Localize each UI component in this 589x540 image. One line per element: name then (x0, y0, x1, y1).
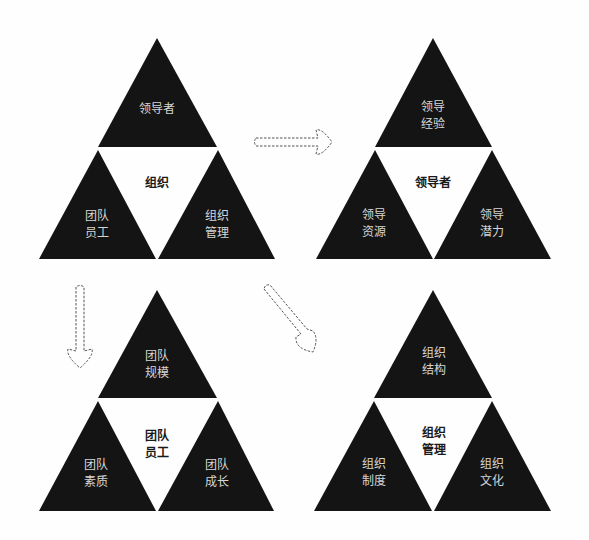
triforce-leader (316, 38, 551, 259)
label-org-management-top: 组织 结构 (422, 345, 446, 379)
label-org-management-center: 组织 管理 (422, 425, 446, 459)
dashed-arrow-right-icon (255, 130, 333, 155)
label-org-management-left: 组织 制度 (362, 456, 386, 490)
label-organization-right: 组织 管理 (205, 208, 229, 242)
label-team-staff-left: 团队 素质 (84, 457, 108, 491)
triangle-left (316, 150, 433, 259)
dashed-arrow-down-icon (68, 286, 93, 369)
label-team-staff-top: 团队 规模 (145, 348, 169, 382)
triforce-org-management (314, 290, 551, 511)
triangle-top (98, 38, 217, 147)
label-team-staff-center: 团队 员工 (145, 428, 169, 462)
label-team-staff-right: 团队 成长 (205, 457, 229, 491)
label-leader-left: 领导 资源 (362, 207, 386, 241)
label-organization-left: 团队 员工 (85, 208, 109, 242)
triangle-left (39, 150, 156, 259)
label-leader-top: 领导 经验 (421, 99, 445, 133)
label-organization-center: 组织 (145, 175, 169, 192)
triangle-top (374, 290, 492, 398)
triangle-right (158, 150, 275, 259)
label-leader-center: 领导者 (415, 175, 451, 192)
triangle-right (434, 150, 551, 259)
triangle-left (39, 401, 156, 511)
label-org-management-right: 组织 文化 (480, 456, 504, 490)
dashed-arrow-diagonal-icon (264, 285, 316, 352)
triforce-team-staff (39, 290, 274, 511)
label-organization-top: 领导者 (139, 101, 175, 118)
triforce-organization (39, 38, 275, 259)
triangle-right (158, 401, 274, 511)
label-leader-right: 领导 潜力 (480, 207, 504, 241)
